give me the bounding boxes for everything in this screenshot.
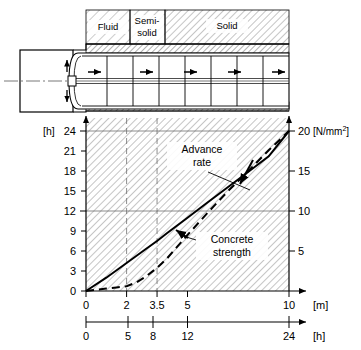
time-tick-12: 12: [181, 330, 193, 342]
left-tick-3: 3: [70, 265, 76, 277]
zone-semi-solid: Semi- solid: [130, 10, 165, 44]
dist-tick-10: 10: [283, 299, 295, 311]
right-tick-15: 15: [298, 165, 310, 177]
zone-label-semi: Semi-: [135, 15, 160, 26]
right-tick-20: 20: [298, 125, 310, 137]
dist-tick-0: 0: [83, 299, 89, 311]
advance-rate-label-line2: rate: [193, 156, 211, 168]
figure-root: Fluid Semi- solid Solid: [0, 0, 361, 350]
left-tick-15: 15: [64, 185, 76, 197]
zone-label-fluid: Fluid: [98, 21, 119, 32]
left-tick-0: 0: [70, 285, 76, 297]
dist-tick-3p5: 3.5: [149, 299, 164, 311]
advance-rate-label-line1: Advance: [182, 143, 223, 155]
right-tick-10: 10: [298, 205, 310, 217]
bottom-time-ticks: 0 5 8 12 24 [h]: [83, 316, 325, 342]
time-tick-24: 24: [283, 330, 295, 342]
zone-label-semi-2: solid: [137, 27, 157, 38]
technical-figure: Fluid Semi- solid Solid: [0, 0, 361, 350]
zone-solid: Solid: [165, 10, 289, 44]
right-tick-5: 5: [298, 245, 304, 257]
left-tick-18: 18: [64, 165, 76, 177]
dist-tick-2: 2: [124, 299, 130, 311]
concrete-strength-label-line1: Concrete: [211, 233, 254, 245]
zone-label-solid: Solid: [216, 20, 237, 31]
right-axis-ticks: 20 15 10 5 [N/mm2]: [289, 125, 349, 257]
left-tick-6: 6: [70, 245, 76, 257]
time-tick-8: 8: [150, 330, 156, 342]
left-tick-21: 21: [64, 145, 76, 157]
left-tick-9: 9: [70, 225, 76, 237]
left-axis-ticks: 24 21 18 15 12 9 6 3 0 [h]: [43, 125, 86, 297]
time-tick-0: 0: [83, 330, 89, 342]
bottom-time-unit: [h]: [313, 330, 325, 342]
left-tick-12: 12: [64, 205, 76, 217]
concrete-strength-label-line2: strength: [213, 246, 251, 258]
cutter-head: [68, 76, 76, 86]
zone-fluid: Fluid: [86, 10, 130, 44]
ground-wall-top: [86, 44, 289, 53]
left-axis-unit: [h]: [43, 125, 55, 137]
bottom-distance-ticks: 0 2 3.5 5 10 [m]: [83, 291, 328, 311]
dist-tick-5: 5: [184, 299, 190, 311]
top-schematic: Fluid Semi- solid Solid: [4, 10, 289, 112]
pipe-assembly: [4, 44, 289, 112]
right-axis-unit: [N/mm2]: [313, 125, 349, 137]
left-tick-24: 24: [64, 125, 76, 137]
bottom-distance-unit: [m]: [313, 299, 328, 311]
chart: 24 21 18 15 12 9 6 3 0 [h] 20 15 10 5 [N…: [43, 116, 349, 342]
time-tick-5: 5: [125, 330, 131, 342]
